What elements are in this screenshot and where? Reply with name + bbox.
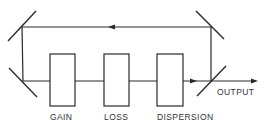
gain-label: GAIN bbox=[50, 112, 72, 122]
arrow-right-icon bbox=[190, 79, 197, 84]
gain-box bbox=[50, 54, 75, 106]
left-beam-path bbox=[22, 27, 23, 81]
loss-box bbox=[104, 54, 129, 106]
dispersion-label: DISPERSION bbox=[157, 112, 213, 122]
mirror-top-right bbox=[196, 11, 224, 39]
ring-cavity-diagram: GAIN LOSS DISPERSION OUTPUT bbox=[0, 0, 268, 128]
arrow-left-icon bbox=[108, 25, 115, 30]
loss-label: LOSS bbox=[104, 112, 128, 122]
dispersion-box bbox=[157, 54, 183, 106]
output-label: OUTPUT bbox=[217, 87, 254, 97]
output-arrow-icon bbox=[251, 79, 258, 84]
